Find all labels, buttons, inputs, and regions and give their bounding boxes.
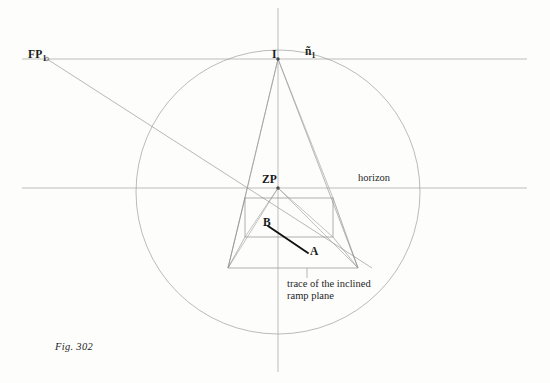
rect-right-to-base-line: [333, 237, 358, 268]
ramp-trace-line: [268, 226, 308, 253]
label-horizon: horizon: [358, 172, 390, 184]
trapezoid-left-edge: [228, 198, 245, 268]
fp1-diagonal-line: [47, 59, 372, 268]
label-fp1-subscript: 1: [42, 54, 46, 63]
annotation-line-2: ramp plane: [287, 290, 371, 302]
label-point-zp: ZP: [262, 173, 277, 187]
label-n1-text: ñ: [305, 45, 312, 57]
rect-left-to-base-line: [228, 237, 245, 268]
label-n1: ñ1: [305, 45, 316, 61]
figure-caption: Fig. 302: [55, 341, 93, 353]
i-to-rect-right-line: [278, 59, 333, 198]
label-point-i: I: [272, 48, 277, 62]
figure-canvas: FP1 I ñ1 ZP horizon B A trace of the inc…: [0, 0, 550, 383]
label-n1-subscript: 1: [312, 51, 316, 60]
label-point-a: A: [310, 245, 319, 259]
i-to-right-base-line: [278, 59, 358, 268]
point-marker-zp: [276, 186, 279, 189]
label-fp1-text: FP: [28, 48, 42, 60]
trapezoid-right-edge: [333, 198, 358, 268]
annotation-ramp-trace: trace of the inclined ramp plane: [287, 278, 371, 303]
annotation-line-1: trace of the inclined: [287, 278, 371, 290]
label-point-b: B: [263, 216, 271, 230]
label-fp1: FP1: [28, 48, 47, 64]
